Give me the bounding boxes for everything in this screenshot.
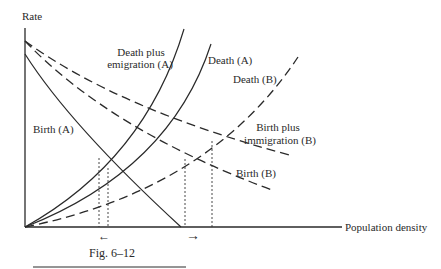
label-death-plus-emigration-a-line1: Death plus xyxy=(106,46,176,58)
label-birth-plus-immigration-b-line2: immigration (B) xyxy=(235,134,325,146)
figure-caption: Fig. 6–12 xyxy=(89,247,135,259)
arrow-right-icon: → xyxy=(186,230,199,242)
label-birth-a: Birth (A) xyxy=(33,123,74,135)
label-death-a: Death (A) xyxy=(208,54,252,66)
label-birth-plus-immigration-b-line1: Birth plus xyxy=(243,121,313,133)
y-axis-label: Rate xyxy=(22,10,42,22)
arrow-left-icon: ← xyxy=(98,230,110,242)
label-death-plus-emigration-a-line2: emigration (A) xyxy=(100,58,180,70)
curve-birth-a xyxy=(25,54,181,227)
label-death-b: Death (B) xyxy=(233,73,277,85)
x-axis-label: Population density xyxy=(345,221,427,233)
curve-death-a xyxy=(25,44,211,227)
label-birth-b: Birth (B) xyxy=(236,167,276,179)
